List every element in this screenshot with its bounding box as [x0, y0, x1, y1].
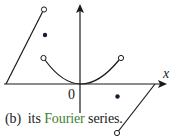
right-segment — [119, 84, 156, 131]
caption-prefix: (b) its — [5, 111, 44, 126]
parabola-segment — [45, 60, 119, 84]
caption-highlight: Fourier — [44, 111, 85, 126]
x-axis-label: x — [162, 66, 170, 81]
left-segment-open-endpoint — [41, 7, 46, 12]
figure-caption: (b) its Fourier series. — [5, 111, 123, 127]
left-midpoint-dot — [43, 33, 47, 37]
right-segment-open-endpoint — [114, 130, 119, 135]
parabola-left-open-endpoint — [41, 55, 46, 60]
right-midpoint-dot — [115, 94, 119, 98]
parabola-right-open-endpoint — [118, 55, 123, 60]
origin-label: 0 — [68, 87, 75, 102]
left-segment — [6, 12, 43, 84]
caption-suffix: series. — [85, 111, 123, 126]
